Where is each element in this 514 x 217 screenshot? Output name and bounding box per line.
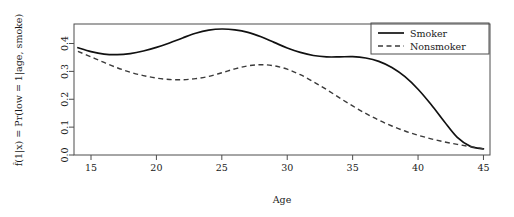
x-axis-ticks: 15202530354045 <box>85 155 490 173</box>
legend-label-smoker: Smoker <box>410 28 448 39</box>
y-tick-label: 0.3 <box>59 64 70 79</box>
y-tick-label: 0.4 <box>59 36 70 51</box>
x-tick-label: 30 <box>281 162 293 173</box>
x-tick-label: 35 <box>347 162 359 173</box>
y-tick-label: 0.2 <box>59 92 70 107</box>
legend-label-nonsmoker: Nonsmoker <box>410 41 466 52</box>
x-tick-label: 45 <box>477 162 489 173</box>
series-line-nonsmoker <box>78 51 484 148</box>
y-tick-label: 0.1 <box>59 120 70 135</box>
x-axis-title: Age <box>272 194 292 205</box>
x-tick-label: 25 <box>216 162 228 173</box>
y-axis-title: f̂(1|x) = Pr(low = 1|age, smoke) <box>13 14 25 166</box>
plot-canvas: 0.00.10.20.30.4 15202530354045 f̂(1|x) =… <box>0 0 514 217</box>
x-tick-label: 15 <box>85 162 97 173</box>
chart-figure: 0.00.10.20.30.4 15202530354045 f̂(1|x) =… <box>0 0 514 217</box>
x-tick-label: 40 <box>412 162 424 173</box>
x-tick-label: 20 <box>150 162 162 173</box>
chart-legend: Smoker Nonsmoker <box>371 23 489 54</box>
y-axis-ticks: 0.00.10.20.30.4 <box>59 36 74 163</box>
y-tick-label: 0.0 <box>59 147 70 162</box>
